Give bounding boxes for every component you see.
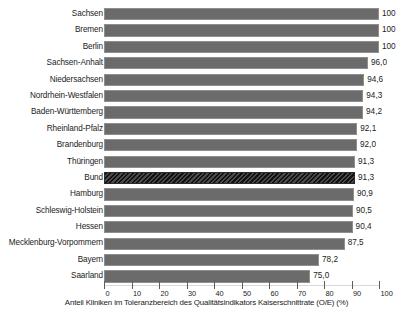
bar-track [104,74,379,86]
category-label: Saarland [71,268,103,284]
bar-track [104,188,379,200]
category-label: Nordrhein-Westfalen [30,88,103,104]
bar-track [104,172,379,184]
bar [104,139,357,151]
bar [104,205,353,217]
x-tick-label: 100 [381,289,393,298]
value-label: 92,0 [360,137,376,153]
bar-row: Bayern78,2 [0,252,413,268]
bar [104,188,354,200]
value-label: 90,4 [356,219,372,235]
bar-track [104,238,379,250]
category-label: Hessen [76,219,103,235]
x-tick [214,281,215,289]
bar-row: Rheinland-Pfalz92,1 [0,121,413,137]
category-label: Baden-Württemberg [31,104,103,120]
bar [104,270,310,282]
bar-row: Sachsen100 [0,6,413,22]
value-label: 92,1 [360,121,376,137]
bar-row: Berlin100 [0,39,413,55]
category-label: Sachsen-Anhalt [47,55,103,71]
bar-track [104,8,379,20]
bar-row: Niedersachsen94,6 [0,72,413,88]
x-tick-label: 20 [161,289,169,298]
bar-highlighted [104,172,355,184]
bar-row: Bund91,3 [0,170,413,186]
value-label: 100 [382,6,396,22]
bar [104,24,379,36]
x-tick [132,281,133,289]
value-label: 91,3 [358,154,374,170]
x-tick [159,281,160,289]
bar-row: Bremen100 [0,22,413,38]
bar-row: Mecklenburg-Vorpommern87,5 [0,235,413,251]
bar-track [104,41,379,53]
x-tick [379,281,380,289]
category-label: Hamburg [70,186,103,202]
bar-track [104,221,379,233]
value-label: 100 [382,39,396,55]
category-label: Berlin [83,39,103,55]
x-tick-label: 90 [353,289,361,298]
x-tick-label: 10 [133,289,141,298]
value-label: 94,2 [366,104,382,120]
bar [104,221,353,233]
x-tick [352,281,353,289]
bar-row: Nordrhein-Westfalen94,3 [0,88,413,104]
bar-row: Brandenburg92,0 [0,137,413,153]
category-label: Bund [84,170,103,186]
x-tick [242,281,243,289]
bar [104,123,357,135]
value-label: 87,5 [348,235,364,251]
value-label: 100 [382,22,396,38]
x-tick-label: 30 [188,289,196,298]
value-label: 96,0 [371,55,387,71]
bar-track [104,106,379,118]
bar [104,238,345,250]
x-axis-title: Anteil Kliniken im Toleranzbereich des Q… [0,298,413,307]
category-label: Bremen [75,22,103,38]
bar-row: Thüringen91,3 [0,154,413,170]
x-tick-label: 80 [326,289,334,298]
bar [104,8,379,20]
bar-track [104,156,379,168]
x-tick-label: 50 [243,289,251,298]
bar-row: Hessen90,4 [0,219,413,235]
bar-row: Sachsen-Anhalt96,0 [0,55,413,71]
x-tick [104,281,105,289]
bar-row: Baden-Württemberg94,2 [0,104,413,120]
x-tick [297,281,298,289]
bar-track [104,24,379,36]
category-label: Brandenburg [57,137,103,153]
x-tick-label: 70 [298,289,306,298]
bar [104,254,319,266]
bar-row: Hamburg90,9 [0,186,413,202]
bar-track [104,205,379,217]
bar [104,156,355,168]
value-label: 94,6 [367,72,383,88]
x-tick [324,281,325,289]
x-tick-label: 40 [216,289,224,298]
value-label: 90,5 [356,203,372,219]
x-tick-label: 60 [271,289,279,298]
x-tick [187,281,188,289]
category-label: Thüringen [67,154,103,170]
category-label: Rheinland-Pfalz [47,121,103,137]
x-tick-label: 0 [106,289,110,298]
bar-track [104,123,379,135]
value-label: 94,3 [366,88,382,104]
bar-track [104,90,379,102]
bar [104,90,363,102]
value-label: 91,3 [358,170,374,186]
category-label: Mecklenburg-Vorpommern [9,235,103,251]
value-label: 78,2 [322,252,338,268]
category-label: Sachsen [72,6,103,22]
x-tick [269,281,270,289]
bar-chart: Sachsen100Bremen100Berlin100Sachsen-Anha… [0,0,413,315]
bar-row: Schleswig-Holstein90,5 [0,203,413,219]
bar-rows: Sachsen100Bremen100Berlin100Sachsen-Anha… [0,6,413,285]
bar [104,106,363,118]
bar [104,57,368,69]
bar-track [104,139,379,151]
value-label: 90,9 [357,186,373,202]
